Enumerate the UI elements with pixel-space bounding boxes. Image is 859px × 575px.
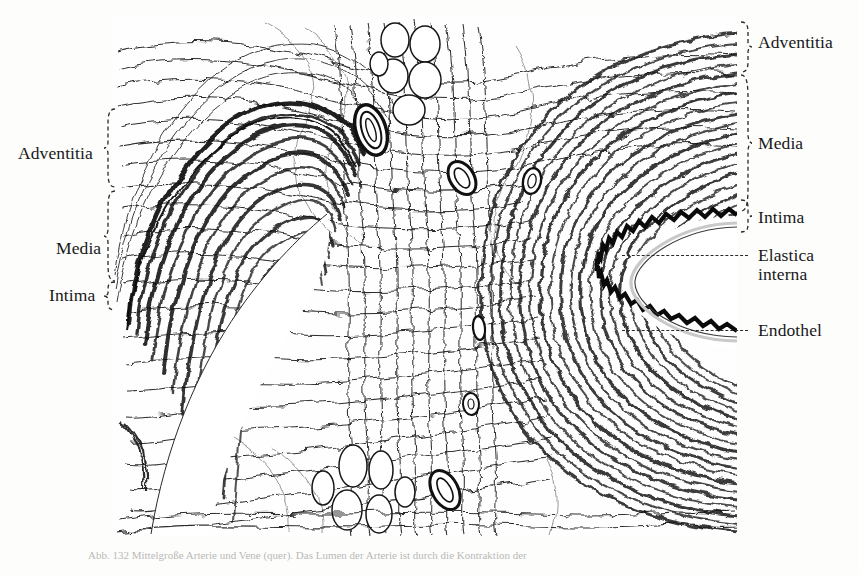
- label-right-elastica-interna-line2: interna: [758, 265, 807, 284]
- histology-figure: Adventitia Media Intima Adventitia Media…: [0, 0, 859, 575]
- leader-elastica-interna: [622, 255, 748, 256]
- label-left-media: Media: [56, 239, 101, 258]
- brace-left-intima: [103, 281, 117, 311]
- leader-endothel: [622, 330, 748, 331]
- label-right-endothel: Endothel: [758, 321, 822, 340]
- brace-right-adventitia: [739, 21, 753, 73]
- brace-left-media: [103, 190, 117, 282]
- label-left-intima: Intima: [49, 286, 95, 305]
- label-right-intima: Intima: [758, 208, 804, 227]
- brace-right-intima: [739, 199, 753, 233]
- label-right-media: Media: [758, 134, 803, 153]
- label-left-adventitia: Adventitia: [18, 144, 93, 163]
- figure-caption: Abb. 132 Mittelgroße Arterie und Vene (q…: [88, 549, 788, 562]
- brace-right-media: [739, 74, 753, 212]
- histology-drawing: [113, 18, 737, 536]
- label-right-adventitia: Adventitia: [758, 33, 833, 52]
- brace-left-adventitia: [103, 108, 117, 188]
- label-right-elastica-interna-line1: Elastica: [758, 246, 814, 265]
